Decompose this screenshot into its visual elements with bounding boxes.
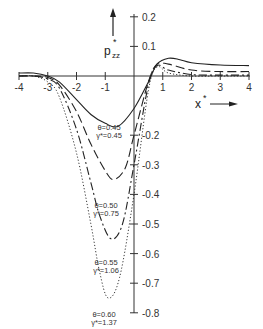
y-tick-label: -0.6 [142, 249, 160, 260]
y-tick-label: -0.4 [142, 189, 160, 200]
annotation-gamma: γ*=1.06 [93, 266, 119, 275]
x-tick-label: -3 [43, 82, 52, 93]
y-tick-label: -0.8 [142, 308, 160, 319]
x-tick-label: -2 [72, 82, 81, 93]
x-axis-title: x * [195, 93, 238, 111]
y-tick-label: -0.2 [142, 130, 160, 141]
arrow-up-icon [110, 8, 116, 17]
annotation-gamma: γ*=0.75 [93, 209, 119, 218]
x-tick-label: 2 [189, 82, 195, 93]
chart-canvas: -4-3-2-11234 0.20.1-0.2-0.3-0.4-0.5-0.6-… [0, 0, 263, 329]
x-tick-label: -1 [101, 82, 110, 93]
x-tick-label: 4 [246, 82, 252, 93]
x-axis-sup: * [203, 93, 207, 103]
y-tick-label: -0.3 [142, 160, 160, 171]
x-tick-label: 3 [217, 82, 223, 93]
arrow-right-icon [229, 102, 238, 107]
x-tick-label: 1 [160, 82, 166, 93]
annotation-gamma: γ*=1.37 [91, 318, 117, 327]
y-axis-label: p [104, 44, 111, 58]
x-tick-label: -4 [15, 82, 24, 93]
y-axis-sub: zz [112, 51, 120, 60]
x-axis-label: x [195, 97, 201, 111]
annotation-gamma: γ*=0.45 [96, 131, 122, 140]
y-tick-label: 0.1 [142, 41, 156, 52]
y-axis-title: p * zz [104, 8, 120, 60]
y-tick-label: 0.2 [142, 12, 156, 23]
y-axis-sup: * [113, 37, 117, 47]
y-tick-label: -0.5 [142, 219, 160, 230]
y-tick-label: -0.7 [142, 278, 160, 289]
